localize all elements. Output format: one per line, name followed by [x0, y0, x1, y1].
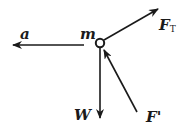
mass-label: m — [80, 27, 96, 42]
tension-label-subscript: T — [170, 24, 176, 34]
tension-force-arrow — [104, 9, 158, 40]
tension-label-text: F — [159, 16, 170, 34]
weight-label: W — [74, 108, 91, 123]
tension-label: FT — [159, 18, 176, 34]
acceleration-label-text: a — [20, 25, 30, 43]
mass-label-text: m — [80, 25, 96, 43]
acceleration-label: a — [20, 27, 30, 42]
normal-force-label: F' — [146, 110, 161, 125]
mass-body-circle — [96, 39, 104, 47]
normal-force-label-text: F' — [146, 108, 161, 126]
weight-label-text: W — [74, 106, 91, 124]
normal-force-arrow — [104, 50, 137, 112]
